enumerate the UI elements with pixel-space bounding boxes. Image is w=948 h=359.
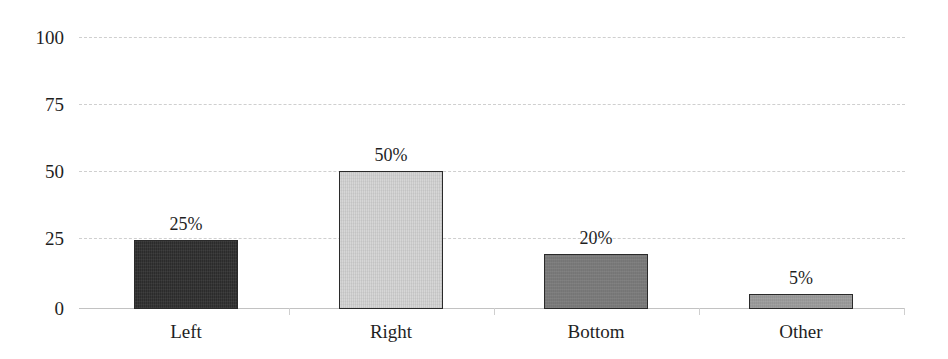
bar-chart: 100 75 50 25 0 25% Left 50% Right 20% Bo…	[0, 0, 948, 359]
x-axis-category-label-bottom: Bottom	[546, 322, 646, 341]
bar-value-label-left: 25%	[136, 215, 236, 233]
x-axis-category-label-left: Left	[136, 322, 236, 341]
plot-area: 100 75 50 25 0 25% Left 50% Right 20% Bo…	[0, 0, 948, 359]
bar-left[interactable]	[134, 240, 238, 309]
bar-value-label-right: 50%	[341, 146, 441, 164]
x-axis-tick-2	[494, 308, 495, 315]
gridline-75	[79, 104, 905, 105]
x-axis-tick-3	[699, 308, 700, 315]
y-axis-tick-label-25: 25	[4, 229, 64, 248]
x-axis-tick-4	[904, 308, 905, 315]
bar-right[interactable]	[339, 171, 443, 309]
bar-other[interactable]	[749, 294, 853, 309]
y-axis-tick-label-75: 75	[4, 95, 64, 114]
gridline-50	[79, 171, 905, 172]
gridline-25	[79, 238, 905, 239]
x-axis-category-label-other: Other	[751, 322, 851, 341]
y-axis-tick-label-0: 0	[4, 299, 64, 318]
x-axis-tick-1	[289, 308, 290, 315]
y-axis-tick-label-50: 50	[4, 162, 64, 181]
x-axis-category-label-right: Right	[341, 322, 441, 341]
bar-value-label-other: 5%	[751, 269, 851, 287]
gridline-100	[79, 37, 905, 38]
bar-bottom[interactable]	[544, 254, 648, 309]
bar-value-label-bottom: 20%	[546, 229, 646, 247]
y-axis-tick-label-100: 100	[4, 28, 64, 47]
